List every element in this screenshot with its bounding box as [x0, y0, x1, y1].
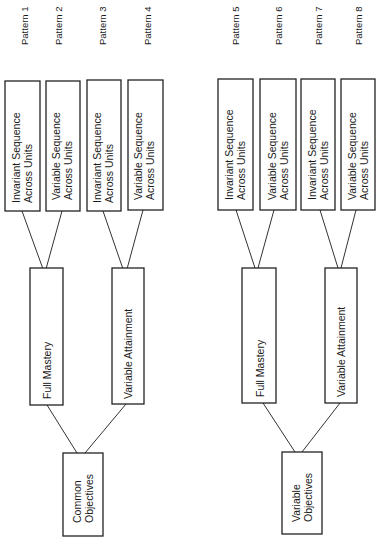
- svg-text:Across Units: Across Units: [318, 141, 330, 200]
- svg-text:Across Units: Across Units: [358, 141, 370, 200]
- pattern-label-8: Pattern 8: [353, 6, 364, 45]
- svg-text:Across Units: Across Units: [22, 144, 34, 203]
- pattern-label-2: Pattern 2: [53, 6, 64, 45]
- root-box-variable-objectives: Variable Objectives: [282, 452, 322, 534]
- leaf-box-pattern-2: Variable Sequence Across Units: [46, 81, 80, 211]
- svg-text:Variable Sequence: Variable Sequence: [346, 112, 358, 200]
- svg-text:Invariant Sequence: Invariant Sequence: [306, 109, 318, 200]
- branch-box-full-mastery-2: Full Mastery: [242, 268, 276, 403]
- leaf-box-pattern-3: Invariant Sequence Across Units: [87, 80, 121, 211]
- pattern-label-1: Pattern 1: [19, 6, 30, 45]
- root-box-common-objectives: Common Objectives: [63, 453, 103, 536]
- leaf-box-pattern-5: Invariant Sequence Across Units: [218, 79, 253, 210]
- branch-box-full-mastery-1: Full Mastery: [30, 268, 63, 405]
- branch-box-variable-attainment-2: Variable Attainment: [325, 268, 357, 403]
- svg-text:Variable: Variable: [290, 484, 302, 522]
- svg-text:Common: Common: [71, 480, 83, 523]
- svg-text:Objectives: Objectives: [302, 473, 314, 522]
- pattern-label-7: Pattern 7: [313, 6, 324, 45]
- svg-text:Across Units: Across Units: [103, 144, 115, 203]
- tree-variable-objectives: Pattern 5 Pattern 6 Pattern 7 Pattern 8 …: [218, 6, 375, 534]
- svg-text:Variable Attainment: Variable Attainment: [335, 307, 347, 397]
- svg-text:Full Mastery: Full Mastery: [254, 339, 266, 397]
- pattern-label-3: Pattern 3: [97, 6, 108, 45]
- tree-common-objectives: Pattern 1 Pattern 2 Pattern 3 Pattern 4 …: [5, 6, 163, 536]
- svg-text:Invariant Sequence: Invariant Sequence: [10, 112, 22, 203]
- svg-text:Across Units: Across Units: [144, 141, 156, 200]
- svg-text:Across Units: Across Units: [278, 141, 290, 200]
- pattern-label-4: Pattern 4: [142, 6, 153, 45]
- svg-text:Variable Sequence: Variable Sequence: [50, 112, 62, 200]
- svg-text:Variable Sequence: Variable Sequence: [132, 112, 144, 200]
- svg-text:Invariant Sequence: Invariant Sequence: [91, 112, 103, 203]
- svg-text:Full Mastery: Full Mastery: [41, 341, 53, 399]
- svg-text:Across Units: Across Units: [235, 141, 247, 200]
- svg-text:Variable Sequence: Variable Sequence: [266, 112, 278, 200]
- svg-text:Variable Attainment: Variable Attainment: [122, 309, 134, 399]
- leaf-box-pattern-6: Variable Sequence Across Units: [260, 79, 296, 210]
- svg-text:Across Units: Across Units: [62, 141, 74, 200]
- branch-box-variable-attainment-1: Variable Attainment: [112, 268, 144, 404]
- pattern-label-6: Pattern 6: [273, 6, 284, 45]
- leaf-box-pattern-4: Variable Sequence Across Units: [128, 80, 163, 210]
- svg-text:Objectives: Objectives: [83, 474, 95, 523]
- leaf-box-pattern-1: Invariant Sequence Across Units: [5, 81, 40, 211]
- svg-text:Invariant Sequence: Invariant Sequence: [223, 109, 235, 200]
- leaf-box-pattern-7: Invariant Sequence Across Units: [301, 79, 335, 210]
- leaf-box-pattern-8: Variable Sequence Across Units: [341, 79, 375, 210]
- pattern-label-5: Pattern 5: [230, 6, 241, 45]
- patterns-tree-diagram: Pattern 1 Pattern 2 Pattern 3 Pattern 4 …: [0, 0, 387, 555]
